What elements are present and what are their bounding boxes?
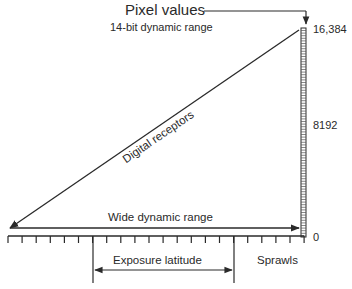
exposure-latitude-label: Exposure latitude — [113, 255, 202, 267]
y-tick-zero: 0 — [313, 232, 319, 243]
pixel-value-ladder — [301, 28, 306, 237]
y-tick-max: 16,384 — [313, 24, 347, 35]
diagram-canvas — [0, 0, 352, 289]
wide-dynamic-range-label: Wide dynamic range — [108, 212, 213, 224]
credit-label: Sprawls — [257, 255, 298, 267]
exposure-axis-ticks — [8, 236, 304, 243]
digital-receptors-line — [10, 30, 299, 228]
diagram-subtitle: 14-bit dynamic range — [110, 22, 213, 33]
diagram-title: Pixel values — [125, 2, 205, 17]
y-tick-mid: 8192 — [313, 120, 337, 131]
pixel-values-pointer — [204, 11, 306, 24]
